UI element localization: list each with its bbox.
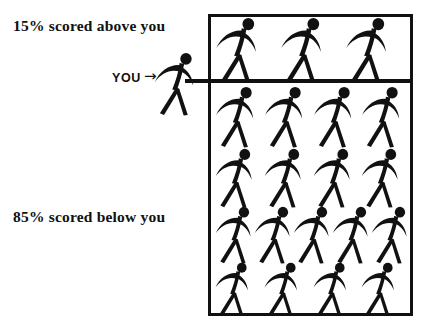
person-icon [311, 86, 356, 148]
caption-above-label: 15% scored above you [13, 17, 165, 35]
person-icon [291, 206, 333, 264]
person-icon [343, 17, 391, 83]
person-icon [252, 206, 294, 264]
person-icon [330, 206, 372, 264]
person-icon [213, 148, 256, 208]
person-icon [262, 148, 305, 208]
person-icon [359, 86, 404, 148]
people-row [213, 262, 408, 316]
people-row [213, 17, 408, 83]
person-icon [278, 17, 326, 83]
person-icon [311, 262, 350, 316]
person-icon [311, 148, 354, 208]
person-icon [359, 148, 402, 208]
people-row [213, 206, 408, 264]
person-icon [213, 17, 261, 83]
caption-below-label: 85% scored below you [13, 208, 165, 226]
you-label: YOU [112, 71, 141, 85]
people-row [213, 86, 408, 148]
person-icon [262, 86, 307, 148]
person-icon [262, 262, 301, 316]
person-icon [213, 86, 258, 148]
people-row [213, 148, 408, 208]
you-person-icon [152, 52, 198, 120]
person-icon [359, 262, 398, 316]
percentile-pictogram: 15% scored above you 85% scored below yo… [0, 0, 433, 334]
person-icon [213, 262, 252, 316]
you-marker-label-group: YOU → [112, 70, 156, 85]
person-icon [369, 206, 411, 264]
person-icon [213, 206, 255, 264]
